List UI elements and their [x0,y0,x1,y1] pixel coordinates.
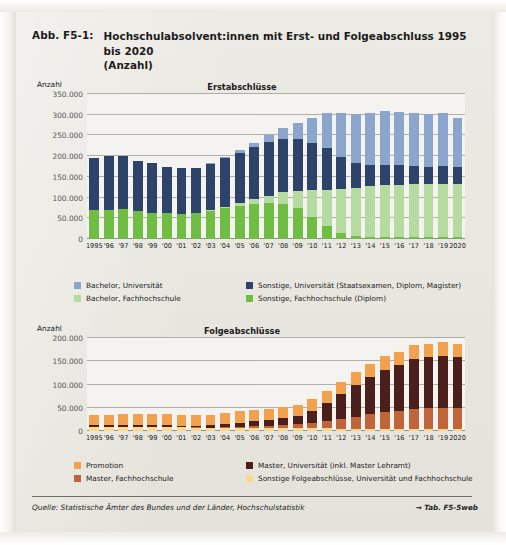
bar-slot[interactable]: '97 [116,338,131,431]
stacked-bar[interactable] [249,410,259,431]
stacked-bar[interactable] [89,158,99,239]
bar-slot[interactable]: '96 [102,338,117,431]
stacked-bar[interactable] [307,399,317,431]
bar-slot[interactable]: '17 [407,94,422,239]
bar-slot[interactable]: 1995 [87,94,102,239]
stacked-bar[interactable] [147,414,157,431]
bar-slot[interactable]: '99 [145,94,160,239]
stacked-bar[interactable] [409,345,419,431]
stacked-bar[interactable] [89,415,99,431]
stacked-bar[interactable] [394,112,404,239]
bar-slot[interactable]: '18 [421,94,436,239]
bar-slot[interactable]: '06 [247,338,262,431]
table-reference-link[interactable]: → Tab. F5-5web [416,503,478,512]
stacked-bar[interactable] [104,156,114,239]
bar-slot[interactable]: '11 [320,338,335,431]
stacked-bar[interactable] [365,364,375,431]
bar-slot[interactable]: '01 [174,94,189,239]
stacked-bar[interactable] [380,111,390,239]
bar-slot[interactable]: '09 [290,338,305,431]
stacked-bar[interactable] [336,113,346,239]
bar-slot[interactable]: '12 [334,94,349,239]
bar-slot[interactable]: 1995 [87,338,102,431]
bar-slot[interactable]: '98 [131,338,146,431]
bar-slot[interactable]: '02 [189,338,204,431]
stacked-bar[interactable] [177,415,187,431]
stacked-bar[interactable] [409,113,419,239]
bar-slot[interactable]: '10 [305,338,320,431]
stacked-bar[interactable] [264,409,274,431]
stacked-bar[interactable] [278,407,288,431]
stacked-bar[interactable] [424,114,434,239]
bar-slot[interactable]: '11 [320,94,335,239]
bar-slot[interactable]: '05 [232,338,247,431]
stacked-bar[interactable] [191,168,201,239]
bar-slot[interactable]: '09 [290,94,305,239]
stacked-bar[interactable] [191,415,201,431]
stacked-bar[interactable] [322,391,332,431]
bar-slot[interactable]: '03 [203,94,218,239]
stacked-bar[interactable] [424,344,434,431]
bar-slot[interactable]: '13 [349,94,364,239]
stacked-bar[interactable] [206,163,216,239]
stacked-bar[interactable] [235,150,245,239]
stacked-bar[interactable] [104,415,114,431]
bar-slot[interactable]: '07 [261,94,276,239]
bar-slot[interactable]: '13 [349,338,364,431]
stacked-bar[interactable] [147,163,157,239]
bar-slot[interactable]: '01 [174,338,189,431]
bar-slot[interactable]: '06 [247,94,262,239]
stacked-bar[interactable] [206,415,216,431]
legend-item[interactable]: Sonstige, Fachhochschule (Diplom) [246,294,461,303]
stacked-bar[interactable] [133,161,143,239]
bar-slot[interactable]: '19 [436,338,451,431]
stacked-bar[interactable] [162,414,172,431]
bar-slot[interactable]: '04 [218,338,233,431]
bar-slot[interactable]: '02 [189,94,204,239]
stacked-bar[interactable] [336,382,346,431]
bar-slot[interactable]: '97 [116,94,131,239]
bar-slot[interactable]: '16 [392,94,407,239]
bar-slot[interactable]: '18 [421,338,436,431]
stacked-bar[interactable] [293,405,303,431]
stacked-bar[interactable] [380,356,390,431]
legend-item[interactable]: Sonstige, Universität (Staatsexamen, Dip… [246,281,461,290]
stacked-bar[interactable] [438,113,448,239]
bar-slot[interactable]: '00 [160,338,175,431]
bar-slot[interactable]: 2020 [450,94,465,239]
bar-slot[interactable]: '08 [276,94,291,239]
legend-item[interactable]: Master, Fachhochschule [74,474,246,483]
stacked-bar[interactable] [394,352,404,431]
bar-slot[interactable]: '15 [378,338,393,431]
bar-slot[interactable]: '16 [392,338,407,431]
stacked-bar[interactable] [293,123,303,239]
bar-slot[interactable]: '99 [145,338,160,431]
legend-item[interactable]: Sonstige Folgeabschlüsse, Universität un… [246,474,473,483]
stacked-bar[interactable] [438,342,448,431]
bar-slot[interactable]: '96 [102,94,117,239]
legend-item[interactable]: Bachelor, Universität [74,281,246,290]
bar-slot[interactable]: '14 [363,338,378,431]
legend-item[interactable]: Bachelor, Fachhochschule [74,294,246,303]
stacked-bar[interactable] [118,414,128,431]
stacked-bar[interactable] [365,113,375,239]
stacked-bar[interactable] [453,118,463,239]
bar-slot[interactable]: '05 [232,94,247,239]
bar-slot[interactable]: '14 [363,94,378,239]
stacked-bar[interactable] [133,414,143,431]
stacked-bar[interactable] [264,135,274,239]
bar-slot[interactable]: '00 [160,94,175,239]
bar-slot[interactable]: '08 [276,338,291,431]
bar-slot[interactable]: '03 [203,338,218,431]
stacked-bar[interactable] [177,168,187,239]
bar-slot[interactable]: '19 [436,94,451,239]
bar-slot[interactable]: '12 [334,338,349,431]
stacked-bar[interactable] [162,167,172,239]
bar-slot[interactable]: '17 [407,338,422,431]
stacked-bar[interactable] [220,413,230,431]
stacked-bar[interactable] [278,128,288,239]
stacked-bar[interactable] [307,118,317,239]
bar-slot[interactable]: '15 [378,94,393,239]
bar-slot[interactable]: 2020 [450,338,465,431]
legend-item[interactable]: Promotion [74,461,246,470]
